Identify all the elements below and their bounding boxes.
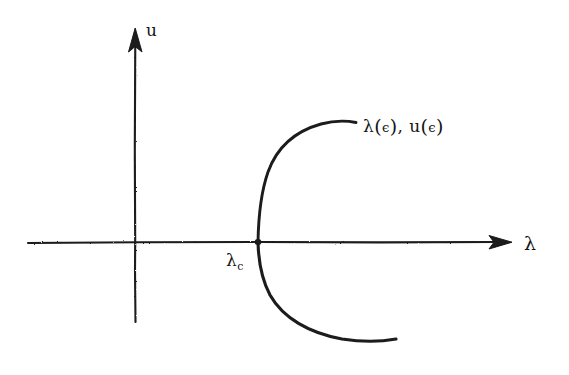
- lambda-c-base: λ: [226, 250, 237, 270]
- branch-label-u: u: [409, 116, 420, 136]
- lambda-axis-line: [28, 242, 496, 243]
- branch-label-lambda: λ: [363, 116, 374, 136]
- lower-branch-curve: [258, 242, 396, 341]
- upper-branch-curve: [258, 121, 356, 242]
- branch-label-close-paren-2: ): [436, 115, 444, 137]
- branch-label-close-paren-1: ): [390, 115, 398, 137]
- lambda-c-subscript: c: [237, 260, 243, 273]
- lambda-c-label: λc: [226, 252, 243, 272]
- bifurcation-diagram-figure: u λ λc λ(ϵ), u(ϵ): [0, 0, 569, 375]
- branch-label-epsilon-2: ϵ: [428, 120, 436, 135]
- u-axis-label: u: [146, 22, 157, 39]
- branch-label-epsilon-1: ϵ: [382, 120, 390, 135]
- u-axis-line: [135, 40, 136, 322]
- branch-curve-label: λ(ϵ), u(ϵ): [363, 117, 444, 136]
- lambda-axis-label: λ: [524, 234, 536, 253]
- bifurcation-point-marker: [255, 239, 262, 245]
- branch-label-open-paren-1: (: [374, 115, 382, 137]
- diagram-canvas: [0, 0, 569, 375]
- branch-label-comma: ,: [398, 116, 404, 136]
